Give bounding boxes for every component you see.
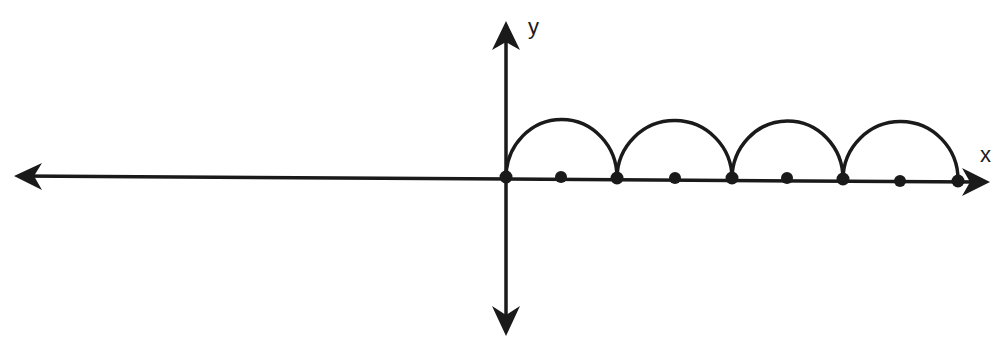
arc-midpoint [669, 172, 681, 184]
arc-4 [843, 122, 958, 180]
arc-endpoint [952, 175, 965, 188]
arc-midpoint [555, 171, 567, 183]
arc-endpoint [611, 172, 624, 185]
x-axis [20, 176, 978, 182]
arc-midpoint [894, 175, 906, 187]
arc-3 [732, 121, 843, 179]
arc-endpoint [500, 171, 513, 184]
x-axis-label: x [980, 142, 991, 167]
coordinate-plane: y x [0, 0, 1001, 348]
arc-midpoint [781, 172, 793, 184]
arc-endpoint [726, 172, 739, 185]
arc-endpoint [837, 173, 850, 186]
arc-2 [617, 121, 732, 179]
arc-1 [506, 120, 617, 178]
y-axis-label: y [528, 14, 539, 39]
